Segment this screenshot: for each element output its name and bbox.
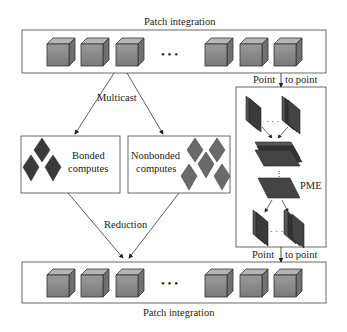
pme-label: PME xyxy=(300,180,322,192)
bottom-ellipsis: • • • xyxy=(161,277,178,289)
bottom-stage-title: Patch integration xyxy=(143,307,214,319)
nonbonded-label-2: computes xyxy=(136,163,176,175)
top-ellipsis: • • • xyxy=(161,48,178,60)
diagram: · · · ⋮ · · · Patch integration • • • Mu… xyxy=(0,0,347,332)
nonbonded-label-1: Nonbonded xyxy=(131,150,180,162)
top-stage-title: Patch integration xyxy=(144,16,215,28)
ptp-top-left: Point xyxy=(253,74,275,86)
svg-text:· · ·: · · · xyxy=(270,226,284,236)
multicast-label: Multicast xyxy=(97,92,137,104)
svg-text:⋮: ⋮ xyxy=(275,169,283,178)
svg-text:· · ·: · · · xyxy=(266,116,280,126)
ptp-top-right: to point xyxy=(285,74,317,86)
reduction-label: Reduction xyxy=(104,219,147,231)
bonded-label-2: computes xyxy=(68,163,108,175)
bonded-label-1: Bonded xyxy=(72,150,105,162)
ptp-bottom-left: Point xyxy=(252,249,274,261)
ptp-bottom-right: to point xyxy=(285,249,317,261)
